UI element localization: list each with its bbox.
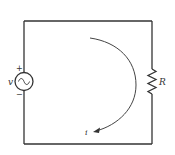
source-label: v bbox=[8, 77, 13, 87]
ac-source-icon bbox=[15, 73, 33, 91]
resistor-label: R bbox=[158, 77, 166, 87]
wires bbox=[24, 21, 152, 144]
resistor-icon bbox=[148, 69, 156, 94]
circuit-diagram: + − v R i bbox=[0, 0, 175, 155]
current-label: i bbox=[85, 128, 88, 137]
plus-sign: + bbox=[16, 64, 23, 73]
current-arrow-icon bbox=[90, 38, 136, 133]
minus-sign: − bbox=[16, 90, 23, 99]
